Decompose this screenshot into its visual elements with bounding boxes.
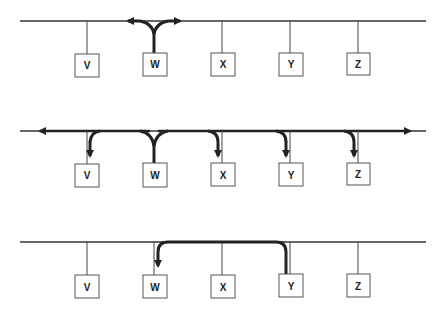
signal-drop-y [276, 131, 286, 156]
station-y: Y [279, 163, 303, 186]
station-v: V [75, 54, 99, 77]
station-w: W [143, 53, 167, 76]
signal-drop-x [208, 131, 218, 156]
bus-network-diagram: V W X Y Z [0, 0, 448, 314]
signal-w-left [140, 131, 154, 146]
svg-text:Y: Y [288, 170, 295, 181]
svg-text:Y: Y [288, 281, 295, 292]
signal-w-right [154, 131, 168, 146]
svg-text:W: W [150, 170, 160, 181]
station-x: X [211, 275, 235, 298]
svg-text:Z: Z [355, 281, 361, 292]
signal-w-left-arrow [128, 21, 154, 34]
station-w: W [143, 163, 167, 187]
svg-text:Z: Z [355, 169, 361, 180]
station-x: X [211, 163, 235, 186]
station-y: Y [279, 53, 303, 76]
station-w: W [143, 275, 167, 298]
svg-text:W: W [150, 59, 160, 70]
signal-w-right-arrow [154, 21, 180, 34]
station-v: V [75, 275, 99, 298]
svg-text:Z: Z [355, 59, 361, 70]
svg-text:X: X [220, 282, 227, 293]
svg-text:V: V [84, 170, 91, 181]
station-y: Y [279, 274, 303, 297]
signal-drop-z [344, 131, 354, 156]
station-z: Z [347, 274, 370, 297]
svg-text:X: X [220, 170, 227, 181]
svg-text:W: W [150, 282, 160, 293]
svg-text:Y: Y [288, 59, 295, 70]
signal-drop-v [90, 131, 100, 156]
panel-broadcast-propagated: V W X Y Z [20, 131, 426, 187]
station-z: Z [347, 53, 370, 75]
panel-reply: V W X Y Z [20, 242, 426, 298]
station-z: Z [347, 163, 370, 185]
panel-broadcast-start: V W X Y Z [20, 21, 426, 77]
station-v: V [75, 164, 99, 187]
station-x: X [211, 53, 235, 76]
svg-text:V: V [84, 60, 91, 71]
svg-text:V: V [84, 282, 91, 293]
svg-text:X: X [220, 59, 227, 70]
